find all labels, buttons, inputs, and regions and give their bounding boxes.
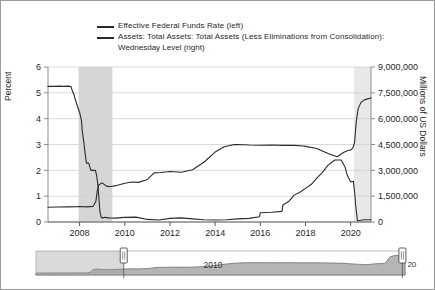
navigator-right-handle-label: 20 (407, 260, 416, 269)
chart-container: Effective Federal Funds Rate (left) Asse… (0, 0, 435, 290)
x-axis-ticks: 2008201020122014201620182020 (70, 222, 361, 238)
navigator-handle-left[interactable] (120, 248, 127, 263)
navigator-range-label: 2010 (204, 260, 223, 270)
x-axis-tick-label: 2020 (341, 228, 361, 238)
y-axis-left-tick-label: 4 (36, 114, 41, 124)
range-navigator[interactable]: 201020 (36, 248, 417, 278)
y-axis-right-ticks: 01,500,0003,000,0004,500,0006,000,0007,5… (371, 62, 418, 227)
y-axis-right-tick-label: 7,500,000 (378, 88, 418, 98)
y-axis-left-tick-label: 3 (36, 140, 41, 150)
x-axis-tick-label: 2008 (70, 228, 90, 238)
y-axis-right-tick-label: 6,000,000 (378, 114, 418, 124)
plot-area: 0123456 01,500,0003,000,0004,500,0006,00… (1, 1, 435, 290)
y-axis-left-tick-label: 6 (36, 62, 41, 72)
y-axis-left-tick-label: 0 (36, 217, 41, 227)
x-axis-tick-label: 2010 (115, 228, 135, 238)
y-axis-right-tick-label: 1,500,000 (378, 191, 418, 201)
x-axis-tick-label: 2012 (160, 228, 180, 238)
y-axis-right-tick-label: 0 (378, 217, 383, 227)
x-axis-tick-label: 2016 (250, 228, 270, 238)
y-axis-right-tick-label: 3,000,000 (378, 166, 418, 176)
x-axis-tick-label: 2014 (205, 228, 225, 238)
navigator-unselected-left[interactable] (36, 251, 124, 275)
y-axis-left-tick-label: 5 (36, 88, 41, 98)
y-axis-left-ticks: 0123456 (36, 62, 48, 227)
y-axis-right-tick-label: 9,000,000 (378, 62, 418, 72)
y-axis-left-tick-label: 2 (36, 166, 41, 176)
x-axis-tick-label: 2018 (295, 228, 315, 238)
y-axis-left-tick-label: 1 (36, 191, 41, 201)
y-axis-right-tick-label: 4,500,000 (378, 140, 418, 150)
plot-svg: 0123456 01,500,0003,000,0004,500,0006,00… (1, 1, 435, 290)
navigator-handle-right[interactable] (399, 248, 406, 263)
